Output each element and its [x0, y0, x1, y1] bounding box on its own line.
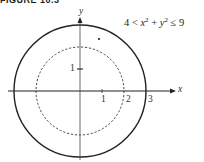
- ineq-y-exp: 2: [164, 16, 168, 24]
- inequality-label: 4 < x2 + y2 ≤ 9: [124, 16, 184, 28]
- ineq-left: 4 <: [124, 17, 138, 28]
- x-tick-label-2: 2: [126, 94, 131, 104]
- ineq-right: ≤ 9: [171, 17, 185, 28]
- ineq-x-exp: 2: [145, 16, 149, 24]
- y-tick-label-1: 1: [70, 63, 75, 73]
- ineq-plus: +: [151, 17, 157, 28]
- y-axis-label: y: [79, 6, 83, 16]
- point-marker: [98, 38, 100, 40]
- y-axis-arrow-icon: [78, 17, 83, 23]
- x-axis-arrow-icon: [170, 89, 176, 94]
- x-tick-label-3: 3: [148, 94, 153, 104]
- x-axis-label: x: [178, 84, 182, 94]
- x-tick-label-1: 1: [101, 94, 106, 104]
